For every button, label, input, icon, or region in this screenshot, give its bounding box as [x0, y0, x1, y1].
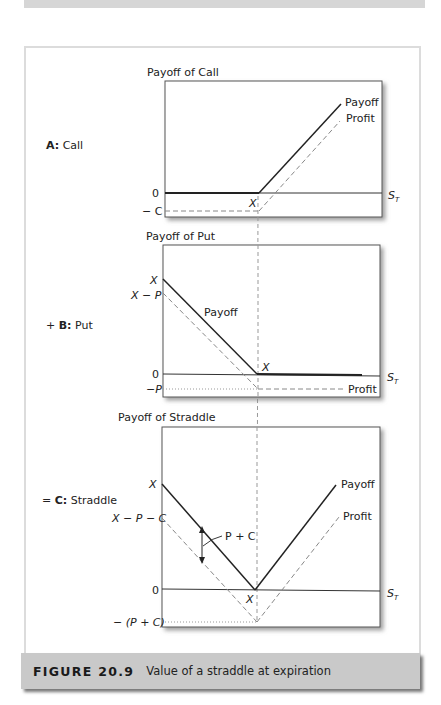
put-payoff-label: Payoff	[204, 306, 238, 319]
straddle-x-label: X	[245, 593, 254, 606]
straddle-panel: Payoff of Straddle = C: Straddle P + C P…	[42, 411, 399, 629]
call-panel: Payoff of Call A: Call Payoff Profit 0 −…	[46, 66, 400, 218]
straddle-gap-label: P + C	[225, 530, 256, 543]
straddle-axis-label: ST	[387, 587, 399, 602]
straddle-title: Payoff of Straddle	[118, 411, 216, 424]
call-title: Payoff of Call	[147, 66, 219, 79]
straddle-y-neg: − (P + C)	[113, 616, 165, 629]
straddle-profit-label: Profit	[343, 510, 372, 523]
put-profit-label: Profit	[348, 383, 377, 396]
straddle-y-x-minus-p-minus-c: X − P − C	[111, 512, 167, 525]
call-row-label: A: Call	[46, 139, 83, 152]
call-payoff-label: Payoff	[345, 96, 379, 109]
put-y-neg: −P	[146, 383, 162, 396]
put-title: Payoff of Put	[146, 230, 216, 243]
straddle-y-x: X	[148, 478, 157, 491]
straddle-plot-box	[162, 427, 380, 627]
put-x-label: X	[261, 361, 270, 374]
put-panel: Payoff of Put + B: Put Payoff Profit X X…	[46, 230, 399, 397]
straddle-figure: Payoff of Call A: Call Payoff Profit 0 −…	[0, 0, 441, 705]
call-y-neg: − C	[142, 205, 163, 218]
put-row-label: + B: Put	[46, 319, 93, 332]
put-y-x: X	[149, 274, 158, 287]
put-y-x-minus-p: X − P	[130, 289, 162, 302]
call-x-label: X	[248, 197, 257, 210]
put-y-zero: 0	[152, 368, 159, 381]
figure-caption-bar: FIGURE 20.9 Value of a straddle at expir…	[21, 653, 420, 689]
straddle-row-label: = C: Straddle	[42, 494, 117, 507]
call-profit-label: Profit	[346, 112, 375, 125]
call-axis-label: ST	[388, 189, 400, 204]
straddle-payoff-label: Payoff	[341, 478, 375, 491]
put-axis-label: ST	[387, 371, 399, 386]
call-y-zero: 0	[152, 187, 159, 200]
figure-number: FIGURE 20.9	[33, 664, 134, 679]
put-payoff-flat	[257, 374, 362, 375]
figure-caption: Value of a straddle at expiration	[146, 664, 331, 678]
straddle-y-zero: 0	[152, 584, 159, 597]
